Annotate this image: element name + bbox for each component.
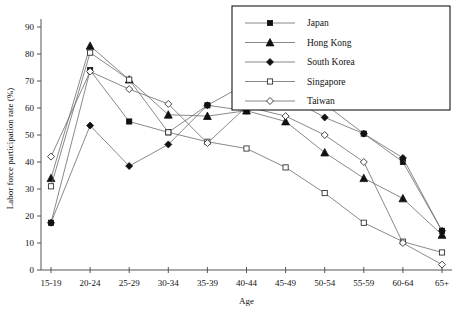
x-tick-label: 60-64	[392, 278, 413, 288]
y-tick-label: 70	[25, 76, 35, 86]
y-tick-label: 10	[25, 238, 35, 248]
x-tick-label: 25-29	[119, 278, 140, 288]
chart-svg: 0102030405060708090Labor force participa…	[0, 0, 456, 317]
data-point	[282, 113, 289, 120]
data-point	[321, 114, 328, 121]
x-tick-label: 40-44	[236, 278, 257, 288]
data-point	[321, 132, 328, 139]
y-tick-label: 20	[25, 211, 35, 221]
data-point	[439, 250, 444, 255]
legend: JapanHong KongSouth KoreaSingaporeTaiwan	[232, 6, 450, 110]
data-point	[439, 261, 446, 268]
chart-root: 0102030405060708090Labor force participa…	[0, 0, 456, 317]
y-axis-title: Labor force participation rate (%)	[5, 88, 15, 209]
data-point	[361, 220, 366, 225]
y-tick-label: 80	[25, 49, 35, 59]
legend-label: Taiwan	[307, 96, 335, 106]
legend-label: Hong Kong	[307, 38, 352, 48]
data-point	[127, 119, 132, 124]
legend-marker	[267, 79, 272, 84]
y-tick-label: 60	[25, 103, 35, 113]
legend-label: Japan	[307, 18, 329, 28]
data-point	[48, 153, 55, 160]
legend-label: South Korea	[307, 57, 356, 67]
y-tick-label: 50	[25, 130, 35, 140]
x-tick-label: 65+	[435, 278, 449, 288]
line-chart: 0102030405060708090Labor force participa…	[0, 0, 456, 317]
data-point	[399, 194, 407, 201]
y-tick-label: 40	[25, 157, 35, 167]
y-tick-label: 30	[25, 184, 35, 194]
data-point	[48, 184, 53, 189]
x-tick-label: 50-54	[314, 278, 335, 288]
data-point	[86, 42, 94, 49]
series-line	[51, 96, 442, 231]
legend-label: Singapore	[307, 77, 346, 87]
x-tick-label: 45-49	[275, 278, 296, 288]
legend-marker	[267, 20, 272, 25]
data-point	[322, 190, 327, 195]
y-tick-label: 0	[30, 265, 35, 275]
data-point	[360, 159, 367, 166]
data-point	[321, 149, 329, 156]
data-point	[126, 86, 133, 93]
x-tick-label: 55-59	[353, 278, 374, 288]
y-tick-label: 90	[25, 22, 35, 32]
data-point	[166, 130, 171, 135]
data-point	[127, 77, 132, 82]
data-point	[244, 146, 249, 151]
data-point	[360, 174, 368, 181]
x-tick-label: 15-19	[41, 278, 62, 288]
y-axis-ticks: 0102030405060708090	[25, 22, 41, 275]
x-tick-label: 20-24	[80, 278, 101, 288]
y-axis-title-text: Labor force participation rate (%)	[5, 88, 15, 209]
data-point	[88, 50, 93, 55]
x-axis-title: Age	[239, 296, 254, 306]
data-point	[283, 165, 288, 170]
x-tick-label: 35-39	[197, 278, 218, 288]
series-south-korea	[48, 92, 446, 234]
x-tick-label: 30-34	[158, 278, 179, 288]
